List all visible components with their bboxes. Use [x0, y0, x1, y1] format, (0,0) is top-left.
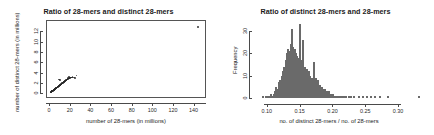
scatter-x-tick [70, 103, 71, 106]
histogram-y-tick-label: 30 [242, 25, 248, 36]
histogram-x-tick [300, 104, 301, 107]
histogram-x-tick-label: 0.25 [360, 108, 371, 114]
scatter-y-tick-label: 12 [33, 26, 39, 36]
histogram-bar [366, 96, 368, 98]
scatter-x-tick-label: 100 [148, 107, 157, 113]
scatter-point [68, 76, 70, 78]
scatter-y-tick [40, 52, 43, 53]
scatter-x-tick [132, 103, 133, 106]
scatter-y-tick [40, 83, 43, 84]
scatter-point [59, 79, 61, 81]
histogram-bar [353, 96, 355, 98]
histogram-bar [362, 96, 364, 98]
histogram-y-tick [249, 76, 252, 77]
scatter-y-tick [40, 62, 43, 63]
histogram-x-tick [332, 104, 333, 107]
histogram-y-tick-label: 20 [242, 48, 248, 59]
histogram-y-tick [249, 98, 252, 99]
histogram-bar [374, 96, 376, 98]
histogram-x-tick-label: 0.10 [262, 108, 273, 114]
scatter-x-tick-label: 120 [168, 107, 177, 113]
scatter-y-tick [40, 93, 43, 94]
scatter-y-tick [40, 42, 43, 43]
histogram-bar [387, 96, 389, 98]
histogram-x-axis-title: no. of distinct 28-mers / no. of 28-mers [279, 118, 378, 124]
scatter-x-tick [111, 103, 112, 106]
histogram-bar [418, 96, 420, 98]
scatter-y-tick-label: 2 [33, 78, 39, 88]
histogram-x-tick [267, 104, 268, 107]
scatter-x-tick-label: 80 [129, 107, 135, 113]
scatter-x-tick-label: 20 [67, 107, 73, 113]
scatter-y-axis-title: number of distinct 28-mers (in millions) [14, 12, 20, 112]
histogram-y-tick-label: 10 [242, 70, 248, 81]
scatter-x-tick [173, 103, 174, 106]
scatter-x-tick-label: 60 [108, 107, 114, 113]
scatter-title: Ratio of 28-mers and distinct 28-mers [0, 7, 217, 16]
scatter-y-tick-label: 8 [33, 47, 39, 57]
scatter-point [197, 26, 199, 28]
scatter-x-axis-title: number of 28-mers (in millions) [86, 118, 166, 124]
histogram-bar [379, 96, 381, 98]
scatter-y-tick-label: 4 [33, 68, 39, 78]
scatter-panel: Ratio of 28-mers and distinct 28-mers 02… [0, 0, 217, 135]
scatter-point [74, 77, 76, 79]
histogram-x-tick [365, 104, 366, 107]
histogram-x-tick-label: 0.30 [393, 108, 404, 114]
scatter-y-tick [40, 31, 43, 32]
scatter-y-tick-label: 6 [33, 57, 39, 67]
histogram-bar [358, 96, 360, 98]
histogram-bar [370, 96, 372, 98]
figure-container: Ratio of 28-mers and distinct 28-mers 02… [0, 0, 434, 135]
histogram-y-axis-title: Frequency [232, 47, 238, 74]
scatter-x-tick-label: 40 [87, 107, 93, 113]
histogram-y-tick [249, 31, 252, 32]
histogram-title: Ratio of distinct 28-mers and 28-mers [217, 7, 434, 16]
histogram-x-tick-label: 0.20 [327, 108, 338, 114]
histogram-y-tick [249, 53, 252, 54]
scatter-x-tick [49, 103, 50, 106]
histogram-x-tick-label: 0.15 [294, 108, 305, 114]
scatter-x-tick [152, 103, 153, 106]
scatter-x-tick [90, 103, 91, 106]
scatter-x-tick [194, 103, 195, 106]
scatter-x-tick-label: 0 [48, 107, 51, 113]
scatter-x-tick-label: 140 [189, 107, 198, 113]
histogram-y-tick-label: 0 [242, 93, 248, 104]
scatter-y-tick-label: 0 [33, 88, 39, 98]
histogram-panel: Ratio of distinct 28-mers and 28-mers 0.… [217, 0, 434, 135]
scatter-y-tick-label: 10 [33, 37, 39, 47]
histogram-y-axis-line [249, 31, 250, 98]
scatter-y-tick [40, 73, 43, 74]
scatter-plot-area [46, 20, 206, 98]
histogram-x-tick [398, 104, 399, 107]
